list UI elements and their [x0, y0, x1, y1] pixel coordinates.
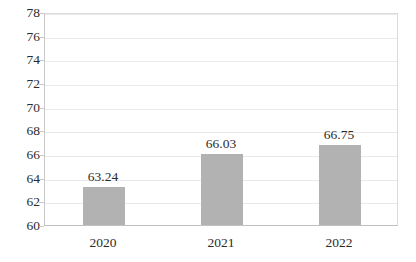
gridline: [45, 14, 397, 15]
y-tick-label: 72: [6, 77, 40, 91]
gridline: [45, 85, 397, 86]
bar-chart: 60626466687072747678 63.2466.0366.75 202…: [0, 0, 416, 262]
bar[interactable]: [201, 154, 243, 225]
y-tick-label: 76: [6, 30, 40, 44]
y-tick-label: 64: [6, 172, 40, 186]
y-tick-label: 74: [6, 53, 40, 67]
y-tick-label: 66: [6, 148, 40, 162]
y-tick-mark: [39, 226, 44, 227]
y-tick-label: 62: [6, 195, 40, 209]
bar[interactable]: [83, 187, 125, 225]
y-tick-label: 60: [6, 219, 40, 233]
x-tick-label: 2021: [181, 236, 261, 250]
gridline: [45, 38, 397, 39]
y-tick-label: 70: [6, 101, 40, 115]
bar-value-label: 63.24: [63, 170, 143, 184]
x-tick-label: 2020: [63, 236, 143, 250]
bar[interactable]: [319, 145, 361, 225]
y-tick-label: 78: [6, 6, 40, 20]
bar-value-label: 66.75: [299, 128, 379, 142]
plot-area: [44, 13, 398, 226]
gridline: [45, 109, 397, 110]
gridline: [45, 61, 397, 62]
x-tick-label: 2022: [299, 236, 379, 250]
y-tick-label: 68: [6, 124, 40, 138]
bar-value-label: 66.03: [181, 137, 261, 151]
